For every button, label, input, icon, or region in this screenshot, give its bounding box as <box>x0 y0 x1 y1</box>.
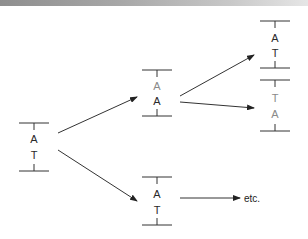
replication-diagram: ATAAATATTA etc. <box>0 0 308 239</box>
base-label: A <box>153 95 161 107</box>
dna-segment-granddaughter-2: TA <box>260 80 290 131</box>
base-label: T <box>272 47 279 59</box>
base-label: T <box>272 92 279 104</box>
base-label: A <box>153 80 161 92</box>
dna-segment-daughter-1: AA <box>142 70 172 116</box>
base-label: T <box>31 149 38 161</box>
base-label: A <box>271 108 279 120</box>
base-label: A <box>153 188 161 200</box>
arrow <box>180 55 254 96</box>
base-label: A <box>30 133 38 145</box>
dna-segment-granddaughter-1: AT <box>260 21 290 68</box>
dna-segment-daughter-2: AT <box>142 177 172 225</box>
etc-label: etc. <box>244 193 260 204</box>
base-label: A <box>271 32 279 44</box>
dna-segment-parent: AT <box>19 123 49 171</box>
arrows <box>58 55 254 201</box>
arrow <box>180 102 254 108</box>
arrow <box>58 97 137 133</box>
base-label: T <box>154 204 161 216</box>
arrow <box>58 150 137 201</box>
